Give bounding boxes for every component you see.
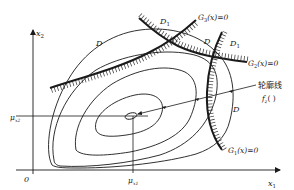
contour-2 <box>75 68 196 155</box>
region-d-top: D <box>203 37 211 46</box>
contour-3 <box>53 52 217 166</box>
contour-1 <box>95 94 162 136</box>
mu-x2-label: μx2 <box>10 113 20 123</box>
x1-axis-label: x1 <box>268 179 276 189</box>
reliability-design-diagram: x2 x1 0 μx2 μx1 D D D D1 D1 G3(x)=0 G2(x… <box>0 0 294 190</box>
origin-label: 0 <box>24 175 29 184</box>
mu-x1-label: μx1 <box>128 176 138 186</box>
g2-label: G2(x)=0 <box>248 59 279 69</box>
contour-label: 轮廓线 <box>258 80 282 90</box>
diagram-canvas: x2 x1 0 μx2 μx1 D D D D1 D1 G3(x)=0 G2(x… <box>0 0 294 190</box>
x2-axis-label: x2 <box>36 29 44 39</box>
contour-func-label: fz( ) <box>261 94 276 104</box>
region-d1-right: D1 <box>229 39 240 49</box>
region-d-left: D <box>95 39 103 48</box>
constraint-g1 <box>207 32 225 150</box>
contour-outer-D <box>49 29 234 168</box>
region-d1-top: D1 <box>159 17 170 27</box>
g1-label: G1(x)=0 <box>228 146 259 156</box>
contours <box>49 29 234 168</box>
g3-label: G3(x)=0 <box>198 13 229 23</box>
region-d-right: D <box>232 105 240 114</box>
